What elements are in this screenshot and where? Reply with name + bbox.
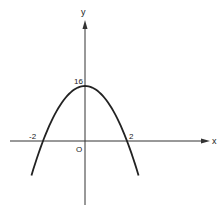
y-axis-label: y bbox=[81, 7, 86, 17]
pos-root-label: 2 bbox=[129, 132, 134, 141]
parabola-chart: y x 16 O -2 2 bbox=[0, 0, 223, 217]
x-axis-label: x bbox=[212, 136, 217, 146]
x-axis-arrow-icon bbox=[201, 139, 210, 144]
y-axis-arrow-icon bbox=[83, 20, 88, 29]
neg-root-label: -2 bbox=[29, 132, 37, 141]
vertex-label: 16 bbox=[74, 77, 83, 86]
origin-label: O bbox=[76, 145, 82, 154]
